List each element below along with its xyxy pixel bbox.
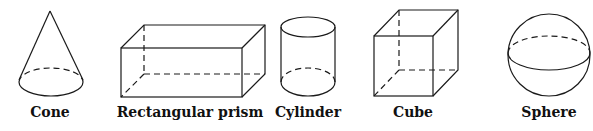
- cylinder-figure: [281, 17, 335, 96]
- cone-figure: [19, 11, 83, 96]
- geometric-solids-diagram: Cone Rectangular prism Cylinder Cube Sph…: [0, 0, 593, 131]
- cone-label: Cone: [30, 104, 70, 120]
- rectangular-prism-figure: [121, 25, 265, 97]
- cube-figure: [374, 10, 458, 96]
- sphere-label: Sphere: [521, 104, 576, 120]
- cylinder-label: Cylinder: [275, 104, 341, 120]
- cube-label: Cube: [393, 104, 433, 120]
- rectangular-prism-label: Rectangular prism: [117, 104, 264, 120]
- sphere-figure: [508, 14, 590, 96]
